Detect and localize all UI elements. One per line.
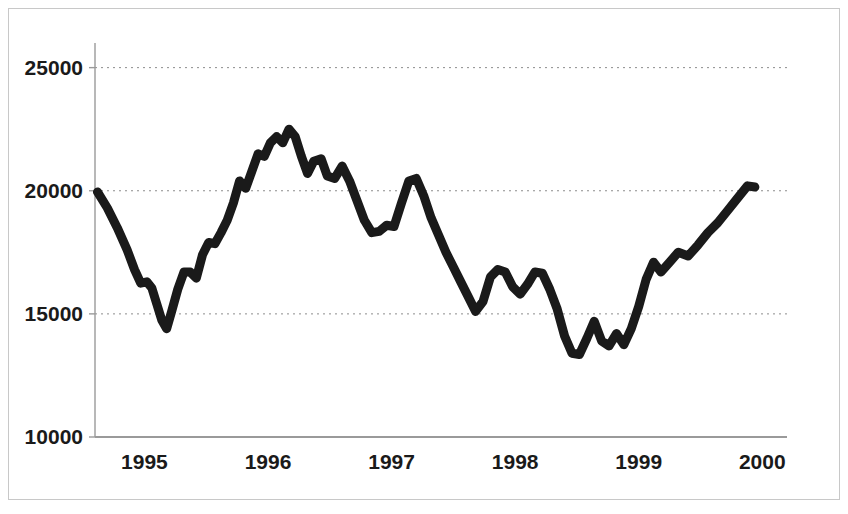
x-tick-label: 1999 bbox=[615, 450, 662, 474]
y-tick-label: 15000 bbox=[18, 302, 83, 326]
data-series-line bbox=[97, 129, 754, 354]
y-tick-marks bbox=[89, 68, 95, 437]
x-tick-label: 1996 bbox=[245, 450, 292, 474]
chart-plot-svg bbox=[0, 0, 848, 514]
chart-figure: 10000150002000025000 1995199619971998199… bbox=[0, 0, 848, 514]
y-tick-label: 20000 bbox=[18, 179, 83, 203]
y-tick-label: 25000 bbox=[18, 56, 83, 80]
y-tick-label: 10000 bbox=[18, 425, 83, 449]
x-tick-label: 1997 bbox=[368, 450, 415, 474]
x-tick-label: 2000 bbox=[739, 450, 786, 474]
x-tick-label: 1998 bbox=[492, 450, 539, 474]
x-tick-label: 1995 bbox=[121, 450, 168, 474]
